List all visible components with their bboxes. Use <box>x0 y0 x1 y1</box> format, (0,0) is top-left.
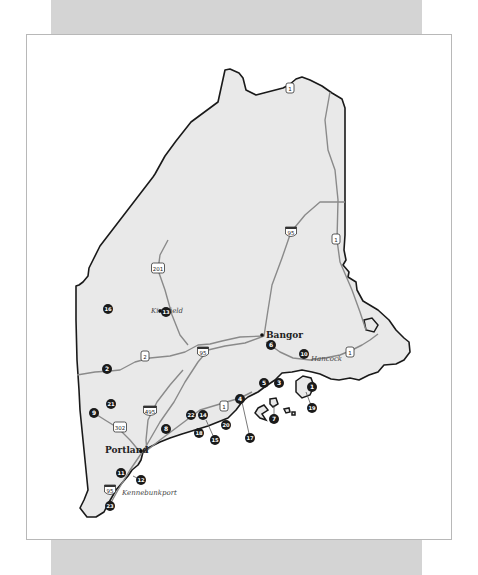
site-marker-18[interactable]: 18 <box>194 428 204 438</box>
site-marker-10[interactable]: 10 <box>299 349 309 359</box>
svg-text:15: 15 <box>211 437 219 443</box>
bangor-dot <box>260 333 264 337</box>
svg-text:9: 9 <box>92 409 96 416</box>
site-marker-6[interactable]: 6 <box>266 340 276 350</box>
svg-text:1: 1 <box>334 237 338 243</box>
us-route-shield-2: 2 <box>141 351 149 361</box>
us-route-shield-201: 201 <box>152 263 165 273</box>
svg-text:1: 1 <box>288 86 292 92</box>
site-marker-15[interactable]: 15 <box>210 435 220 445</box>
svg-text:14: 14 <box>199 412 207 418</box>
city-label: Kennebunkport <box>121 489 177 497</box>
site-marker-20[interactable]: 20 <box>221 420 231 430</box>
site-marker-19[interactable]: 19 <box>307 403 317 413</box>
svg-text:11: 11 <box>117 470 125 476</box>
us-route-shield-1: 1 <box>346 347 354 357</box>
city-bangor: Bangor <box>266 330 303 340</box>
us-route-shield-1: 1 <box>220 401 228 411</box>
svg-text:23: 23 <box>106 503 114 509</box>
svg-text:1: 1 <box>222 404 226 410</box>
svg-text:495: 495 <box>145 409 156 415</box>
site-marker-17[interactable]: 17 <box>245 433 255 443</box>
us-route-shield-1: 1 <box>332 234 340 244</box>
city-kennebunkport: Kennebunkport <box>121 489 177 497</box>
svg-text:302: 302 <box>115 425 126 431</box>
site-marker-13[interactable]: 13 <box>161 307 171 317</box>
us-route-shield-1: 1 <box>286 83 294 93</box>
svg-text:3: 3 <box>277 379 281 386</box>
svg-text:21: 21 <box>107 401 115 407</box>
svg-text:95: 95 <box>288 230 295 236</box>
svg-text:4: 4 <box>238 395 242 402</box>
svg-text:10: 10 <box>300 351 308 357</box>
site-marker-23[interactable]: 23 <box>105 501 115 511</box>
site-marker-4[interactable]: 4 <box>235 394 245 404</box>
maine-map: 11952012954953021195 KingfieldBangorHanc… <box>0 0 478 575</box>
interstate-shield-95: 95 <box>105 485 116 495</box>
site-marker-22[interactable]: 22 <box>186 410 196 420</box>
svg-text:22: 22 <box>187 412 195 418</box>
site-marker-21[interactable]: 21 <box>106 399 116 409</box>
svg-text:13: 13 <box>162 309 170 315</box>
svg-text:95: 95 <box>200 350 207 356</box>
svg-text:20: 20 <box>222 422 230 428</box>
interstate-shield-95: 95 <box>198 347 209 357</box>
svg-text:19: 19 <box>308 405 316 411</box>
site-marker-11[interactable]: 11 <box>116 468 126 478</box>
svg-text:1: 1 <box>310 383 314 390</box>
svg-text:2: 2 <box>105 365 109 372</box>
site-marker-3[interactable]: 3 <box>274 378 284 388</box>
city-label: Bangor <box>266 330 303 340</box>
site-marker-14[interactable]: 14 <box>198 410 208 420</box>
portland-dot <box>139 449 143 453</box>
us-route-shield-302: 302 <box>114 422 127 432</box>
city-label: Portland <box>105 445 149 455</box>
city-label: Hancock <box>310 355 342 363</box>
site-marker-7[interactable]: 7 <box>269 414 279 424</box>
svg-text:8: 8 <box>164 425 168 432</box>
svg-text:95: 95 <box>107 488 114 494</box>
svg-text:16: 16 <box>104 306 112 312</box>
city-portland: Portland <box>105 445 149 455</box>
site-marker-2[interactable]: 2 <box>102 364 112 374</box>
svg-text:17: 17 <box>246 435 254 441</box>
svg-text:201: 201 <box>153 266 164 272</box>
svg-text:7: 7 <box>272 415 276 422</box>
site-marker-9[interactable]: 9 <box>89 408 99 418</box>
svg-text:1: 1 <box>348 350 352 356</box>
interstate-shield-95: 95 <box>286 227 297 237</box>
svg-text:12: 12 <box>137 477 145 483</box>
interstate-shield-495: 495 <box>144 406 157 416</box>
svg-text:5: 5 <box>262 379 266 386</box>
svg-text:6: 6 <box>269 341 273 348</box>
svg-text:2: 2 <box>143 354 147 360</box>
site-marker-16[interactable]: 16 <box>103 304 113 314</box>
svg-text:18: 18 <box>195 430 203 436</box>
city-hancock: Hancock <box>310 355 342 363</box>
site-marker-8[interactable]: 8 <box>161 424 171 434</box>
site-marker-5[interactable]: 5 <box>259 378 269 388</box>
site-marker-12[interactable]: 12 <box>136 475 146 485</box>
site-marker-1[interactable]: 1 <box>307 382 317 392</box>
